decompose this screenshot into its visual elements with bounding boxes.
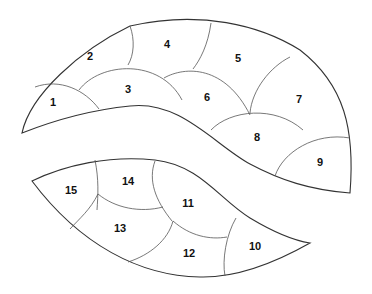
divider-13-12 [128, 221, 173, 262]
region-label-13: 13 [114, 222, 126, 234]
region-label-5: 5 [235, 52, 241, 64]
diagram-canvas: 1 2 3 4 5 6 7 8 9 10 11 12 13 14 15 [0, 0, 372, 294]
region-label-4: 4 [164, 38, 170, 50]
divider-14-11 [152, 161, 172, 221]
divider-15-14 [95, 160, 98, 210]
divider-11-12 [173, 221, 227, 238]
region-label-14: 14 [122, 175, 134, 187]
region-label-10: 10 [249, 240, 261, 252]
region-label-8: 8 [254, 131, 260, 143]
region-label-12: 12 [183, 247, 195, 259]
divider-14-13 [98, 194, 163, 209]
divider-15-13 [70, 194, 98, 229]
divider-1-2 [35, 84, 99, 109]
region-label-3: 3 [125, 83, 131, 95]
lower-shape-outline [32, 159, 310, 277]
region-label-15: 15 [65, 184, 77, 196]
region-label-9: 9 [317, 156, 323, 168]
divider-5-7 [250, 57, 290, 113]
region-label-11: 11 [182, 197, 194, 209]
divider-2-4 [128, 26, 133, 65]
region-label-6: 6 [204, 91, 210, 103]
region-label-7: 7 [296, 93, 302, 105]
divider-12-10 [224, 218, 236, 276]
divider-8-9 [275, 137, 350, 176]
divider-4-5 [193, 23, 211, 69]
divider-6-8 [211, 113, 303, 130]
region-label-2: 2 [87, 50, 93, 62]
region-label-1: 1 [50, 96, 56, 108]
